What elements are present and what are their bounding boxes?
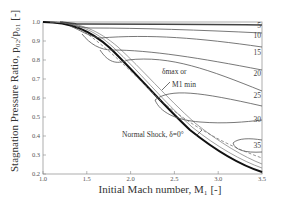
x-tick-label: 2.0 xyxy=(127,175,135,182)
x-tick-label: 1.5 xyxy=(83,175,91,182)
y-tick-label: 0.3 xyxy=(32,151,40,158)
x-axis-label: Initial Mach number, M₁ [-] xyxy=(60,183,260,195)
curves xyxy=(43,22,262,172)
curve-label-20: 20 xyxy=(254,69,262,78)
x-tick-label: 2.5 xyxy=(170,175,178,182)
y-tick-label: 0.9 xyxy=(32,37,40,44)
normal-shock-curve xyxy=(43,22,262,172)
delta-max-arrow xyxy=(162,82,170,90)
annotation-delta-max: δmax or xyxy=(162,67,187,76)
y-tick-label: 0.7 xyxy=(32,75,41,82)
annotation-m1-min: M1 min xyxy=(172,80,196,89)
y-tick-label: 0.4 xyxy=(32,132,41,139)
curve-label-35: 35 xyxy=(254,141,262,150)
chart-plot: 1.01.52.02.53.03.50.20.30.40.50.60.70.80… xyxy=(0,0,282,203)
y-tick-label: 0.5 xyxy=(32,113,40,120)
curve-delta-5 xyxy=(60,22,262,25)
curve-delta-30-upper xyxy=(155,93,262,106)
curve-label-15: 15 xyxy=(254,48,262,57)
normal-shock-inner-curve-2 xyxy=(56,22,262,164)
curve-label-10: 10 xyxy=(254,31,262,40)
y-axis-label: Stagnation Pressure Ratio, p₀₂/p₀₁ [-] xyxy=(8,12,20,172)
y-tick-label: 0.2 xyxy=(32,170,40,177)
x-tick-label: 3.5 xyxy=(258,175,266,182)
curve-label-30: 30 xyxy=(254,115,262,124)
x-tick-label: 3.0 xyxy=(214,175,222,182)
x-tick-label: 1.0 xyxy=(39,175,47,182)
curve-labels: 5101520253035 xyxy=(254,21,262,150)
y-tick-label: 0.8 xyxy=(32,56,40,63)
curve-label-25: 25 xyxy=(254,91,262,100)
y-tick-label: 1.0 xyxy=(32,18,40,25)
annotation-normal-shock: Normal Shock, δ=0° xyxy=(122,130,184,139)
curve-label-5: 5 xyxy=(257,21,261,30)
y-tick-label: 0.6 xyxy=(32,94,41,101)
plot-area xyxy=(43,22,262,174)
curve-delta-20 xyxy=(82,34,262,70)
